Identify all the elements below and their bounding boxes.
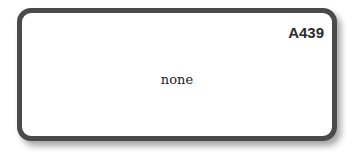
label-card: A439 none bbox=[17, 8, 337, 141]
card-value: none bbox=[22, 72, 332, 87]
card-code: A439 bbox=[288, 24, 324, 41]
